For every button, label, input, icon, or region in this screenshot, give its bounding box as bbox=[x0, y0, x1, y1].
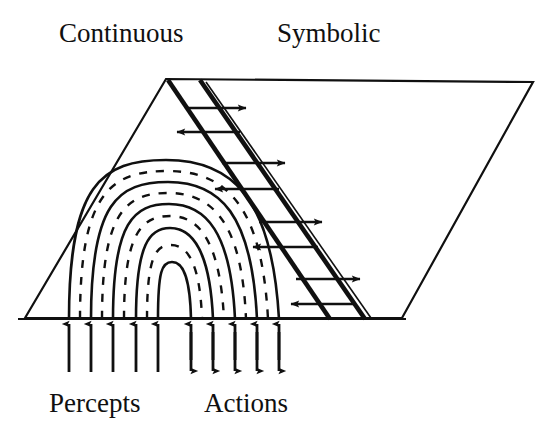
action-arrows bbox=[191, 324, 279, 371]
solid-arc-5 bbox=[158, 262, 191, 319]
architecture-diagram bbox=[0, 0, 549, 444]
label-symbolic: Symbolic bbox=[277, 20, 381, 47]
dashed-arc-group bbox=[80, 171, 268, 319]
band-rail-left bbox=[168, 80, 330, 319]
percept-arrows bbox=[69, 324, 158, 372]
diagram-canvas: Continuous Symbolic Percepts Actions bbox=[0, 0, 549, 444]
solid-arc-1 bbox=[69, 160, 279, 319]
solid-arc-group bbox=[69, 160, 279, 319]
label-actions: Actions bbox=[204, 390, 288, 417]
solid-arc-2 bbox=[91, 182, 257, 319]
dashed-arc-4 bbox=[147, 245, 202, 319]
label-percepts: Percepts bbox=[49, 390, 140, 417]
label-continuous: Continuous bbox=[59, 20, 184, 47]
band-rail-right bbox=[200, 80, 365, 319]
continuous-arcs bbox=[69, 160, 279, 319]
